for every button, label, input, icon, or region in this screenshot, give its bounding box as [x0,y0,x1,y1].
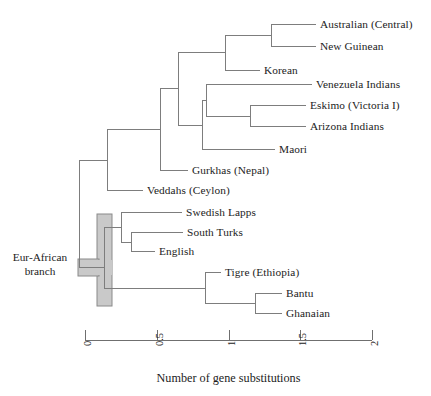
eur-african-annotation-line1: Eur-African [4,250,76,264]
axis-tick-label-1-5: 1.5 [297,333,308,346]
axis-tick-label-1: 1 [226,341,237,346]
leaf-label-arizona-indians: Arizona Indians [310,120,384,132]
eur-african-highlight [78,214,112,306]
leaf-label-maori: Maori [279,143,307,155]
leaf-label-tigre-ethiopia: Tigre (Ethiopia) [225,266,299,278]
axis-tick-label-0-5: 0.5 [154,333,165,346]
phylogenetic-tree-figure: Australian (Central) New Guinean Korean … [0,0,431,396]
tree-svg [0,0,431,396]
leaf-label-south-turks: South Turks [187,226,243,238]
leaf-label-english: English [159,245,194,257]
eur-african-branch-annotation: Eur-African branch [4,250,76,278]
leaf-label-venezuela-indians: Venezuela Indians [316,78,400,90]
axis-tick-label-2: 2 [369,341,380,346]
leaf-label-eskimo-victoria-i: Eskimo (Victoria I) [310,99,400,111]
axis-title: Number of gene substitutions [85,371,372,386]
leaf-label-swedish-lapps: Swedish Lapps [186,206,256,218]
axis-tick-label-0: 0 [82,341,93,346]
leaf-label-australian-central: Australian (Central) [320,18,413,30]
leaf-label-veddahs-ceylon: Veddahs (Ceylon) [147,184,230,196]
leaf-label-new-guinean: New Guinean [320,40,384,52]
leaf-label-ghanaian: Ghanaian [286,307,330,319]
leaf-label-bantu: Bantu [286,287,314,299]
leaf-label-korean: Korean [264,64,298,76]
scale-axis [85,330,372,340]
eur-african-annotation-line2: branch [4,264,76,278]
leaf-label-gurkhas-nepal: Gurkhas (Nepal) [192,164,269,176]
